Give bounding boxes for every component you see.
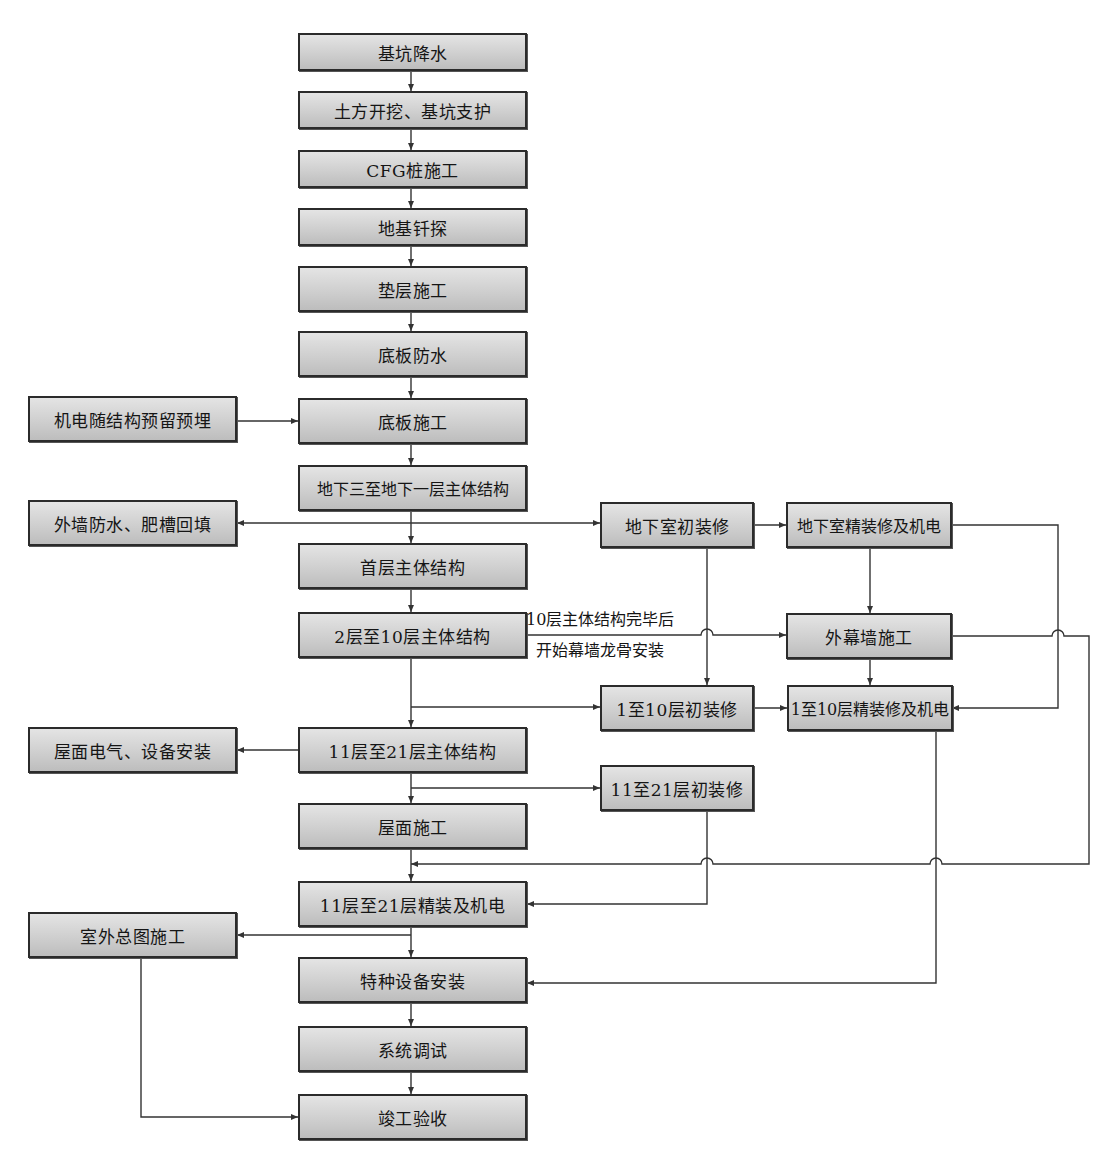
arrowhead bbox=[779, 632, 786, 638]
arrowhead bbox=[408, 201, 414, 208]
step-roof-construction: 屋面施工 bbox=[298, 803, 527, 849]
arrowhead bbox=[291, 1114, 298, 1120]
step-floors-11-21-finishing-mep: 11层至21层精装及机电 bbox=[298, 881, 527, 927]
arrowhead bbox=[408, 1087, 414, 1094]
arrowhead bbox=[408, 143, 414, 150]
step-system-commissioning: 系统调试 bbox=[298, 1026, 527, 1072]
arrowhead bbox=[867, 678, 873, 685]
edge-r01-r03 bbox=[952, 525, 1058, 708]
arrowhead bbox=[408, 391, 414, 398]
step-floors-11-21-structure: 11层至21层主体结构 bbox=[298, 727, 527, 773]
edge-m03-n13 bbox=[527, 811, 707, 904]
arrowhead bbox=[704, 678, 710, 685]
arrowhead bbox=[408, 84, 414, 91]
flowchart-canvas: 基坑降水 土方开挖、基坑支护 CFG桩施工 地基钎探 垫层施工 底板防水 底板施… bbox=[0, 0, 1111, 1167]
arrowhead bbox=[952, 705, 959, 711]
arrowhead bbox=[780, 705, 787, 711]
arrowhead bbox=[237, 932, 244, 938]
curtain-wall-note-line1: 10层主体结构完毕后 bbox=[526, 606, 674, 630]
curtain-wall-note-line2: 开始幕墙龙骨安装 bbox=[536, 637, 664, 661]
arrowhead bbox=[593, 520, 600, 526]
arrowhead bbox=[408, 536, 414, 543]
step-slab-waterproofing: 底板防水 bbox=[298, 331, 527, 377]
step-floors-1-10-rough-finish: 1至10层初装修 bbox=[600, 685, 754, 731]
arrowhead bbox=[237, 747, 244, 753]
step-cushion-layer: 垫层施工 bbox=[298, 266, 527, 312]
arrowhead bbox=[593, 785, 600, 791]
arrowhead bbox=[408, 950, 414, 957]
step-ground-floor-structure: 首层主体结构 bbox=[298, 543, 527, 589]
arrowhead bbox=[408, 324, 414, 331]
step-outdoor-site-works: 室外总图施工 bbox=[28, 912, 237, 958]
arrowhead bbox=[593, 704, 600, 710]
step-basement-structure: 地下三至地下一层主体结构 bbox=[298, 465, 527, 511]
arrowhead bbox=[408, 605, 414, 612]
arrowhead bbox=[867, 606, 873, 613]
arrowhead bbox=[779, 522, 786, 528]
arrowhead bbox=[291, 418, 298, 424]
arrowhead bbox=[408, 259, 414, 266]
step-wall-waterproofing-backfill: 外墙防水、肥槽回填 bbox=[28, 500, 237, 546]
arrowhead bbox=[408, 720, 414, 727]
arrowhead bbox=[408, 458, 414, 465]
step-foundation-probing: 地基钎探 bbox=[298, 208, 527, 246]
step-slab-construction: 底板施工 bbox=[298, 398, 527, 444]
step-floors-11-21-rough-finish: 11至21层初装修 bbox=[600, 765, 754, 811]
edge-l04-n16 bbox=[141, 958, 298, 1117]
connector-layer bbox=[0, 0, 1111, 1167]
arrowhead bbox=[408, 796, 414, 803]
step-floors-2-10-structure: 2层至10层主体结构 bbox=[298, 612, 527, 658]
step-cfg-pile: CFG桩施工 bbox=[298, 150, 527, 188]
step-curtain-wall: 外幕墙施工 bbox=[786, 613, 952, 659]
step-special-equipment: 特种设备安装 bbox=[298, 957, 527, 1003]
step-floors-1-10-finishing-mep: 1至10层精装修及机电 bbox=[787, 685, 953, 731]
step-basement-finishing-mep: 地下室精装修及机电 bbox=[786, 502, 952, 548]
step-foundation-dewatering: 基坑降水 bbox=[298, 33, 527, 71]
arrowhead bbox=[411, 861, 418, 867]
arrowhead bbox=[527, 980, 534, 986]
step-mep-embedding: 机电随结构预留预埋 bbox=[28, 396, 237, 442]
step-basement-rough-finish: 地下室初装修 bbox=[600, 502, 754, 548]
step-roof-electrical-equipment: 屋面电气、设备安装 bbox=[28, 727, 237, 773]
arrowhead bbox=[527, 901, 534, 907]
arrowhead bbox=[408, 1019, 414, 1026]
arrowhead bbox=[237, 520, 244, 526]
arrowhead bbox=[408, 874, 414, 881]
step-excavation-support: 土方开挖、基坑支护 bbox=[298, 91, 527, 129]
step-completion-acceptance: 竣工验收 bbox=[298, 1094, 527, 1140]
